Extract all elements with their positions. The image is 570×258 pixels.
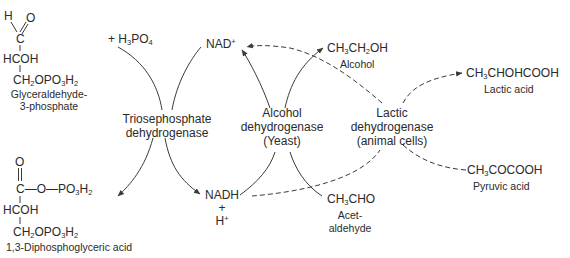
atom-o: O [15,156,24,168]
group-hcoh: HCOH [3,204,38,216]
edge-triose-nad [172,47,201,110]
ethanol-formula: CH3CH2OH [327,42,388,54]
nad-plus: NAD+ [206,38,236,50]
ethanol-label: Alcohol [340,59,374,70]
pyruvic-acid-label: Pyruvic acid [473,181,530,192]
edge-triose-diphospho [118,138,153,196]
alcohol-dehydrogenase: Alcohol dehydrogenase (Yeast) [241,106,324,148]
edge-triose-nadh [165,138,200,194]
lactic-dehydrogenase: Lactic dehydrogenase (animal cells) [351,106,434,148]
group-ch2opo3h2: CH2OPO3H2 [13,74,78,86]
acetaldehyde-label: Acet- aldehyde [329,209,372,235]
group-ch2opo3h2: CH2OPO3H2 [13,226,78,238]
diphosphoglyceric-label: 1,3-Diphosphoglyceric acid [6,242,132,253]
phosphoric-acid: + H3PO4 [108,33,153,45]
edge-lactic-lacticacid [403,73,462,103]
atom-o: O [26,12,35,24]
triosephosphate-dehydrogenase: Triosephosphate dehydrogenase [123,112,212,140]
edge-acetaldehyde-alcohol [290,152,322,196]
edge-nadh-alcohol [240,152,275,195]
group-hcoh: HCOH [3,53,38,65]
edge-h3po4-triose [118,47,162,110]
edge-alcohol-ethanol [285,48,323,108]
pyruvic-acid-formula: CH3COCOOH [467,164,543,176]
lactic-acid-label: Lactic acid [484,84,534,95]
edge-nadh-lactic [252,150,380,196]
acetaldehyde-formula: CH3CHO [327,193,375,205]
edge-pyruvic-lactic [403,145,466,170]
atom-c: C [16,33,25,45]
bond-h-c [11,22,17,32]
edge-alcohol-nad [242,50,270,108]
atom-h: H [4,10,13,22]
glyceraldehyde-label: Glyceraldehyde- 3-phosphate [11,88,87,112]
lactic-acid-formula: CH3CHOHCOOH [466,67,559,79]
nadh-h-plus: NADH + H+ [205,189,239,228]
group-c-o-po3h2: C—O—PO3H2 [16,183,92,195]
